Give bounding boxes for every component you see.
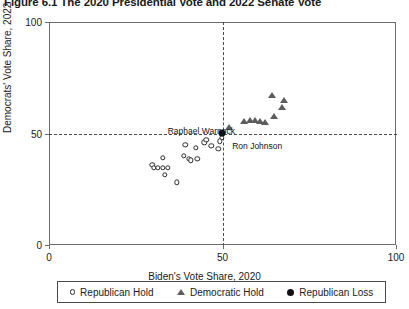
data-point-democratic-hold — [268, 92, 276, 98]
data-point-democratic-hold — [278, 104, 286, 110]
legend-label: Republican Hold — [80, 287, 153, 298]
data-point-democratic-hold — [261, 119, 269, 125]
annotation-raphael-warnock: Raphael Warnock — [168, 126, 235, 136]
data-point-republican-hold — [217, 138, 222, 143]
open-circle-icon — [70, 289, 75, 294]
figure-title: Figure 6.1 The 2020 Presidential Vote an… — [4, 0, 321, 8]
plot-area: Raphael WarnockRon Johnson — [49, 22, 396, 245]
data-point-republican-hold — [174, 180, 179, 185]
data-point-republican-hold — [183, 142, 188, 147]
data-point-republican-hold — [216, 146, 221, 151]
x-tick-mark — [49, 245, 50, 249]
y-tick-label: 0 — [36, 240, 42, 251]
data-point-republican-hold — [162, 172, 167, 177]
legend-label: Republican Loss — [299, 287, 373, 298]
chart-legend: Republican HoldDemocratic HoldRepublican… — [57, 281, 386, 303]
filled-triangle-icon — [177, 289, 185, 295]
y-axis-label: Democrats' Vote Share, 2022 — [2, 3, 13, 133]
legend-item-democratic-hold: Democratic Hold — [177, 287, 264, 298]
data-point-republican-hold — [160, 155, 165, 160]
y-tick-mark — [45, 245, 49, 246]
y-tick-label: 50 — [31, 128, 42, 139]
data-point-republican-hold — [209, 143, 214, 148]
data-point-republican-hold — [188, 157, 193, 162]
annotation-ron-johnson: Ron Johnson — [232, 141, 282, 151]
data-point-republican-hold — [193, 145, 198, 150]
data-point-democratic-hold — [270, 113, 278, 119]
data-point-democratic-hold — [280, 97, 288, 103]
x-tick-label: 0 — [46, 252, 52, 263]
data-point-republican-hold — [203, 137, 208, 142]
legend-label: Democratic Hold — [190, 287, 264, 298]
data-point-republican-hold — [195, 156, 200, 161]
filled-circle-icon — [287, 289, 294, 296]
x-tick-label: 50 — [217, 252, 228, 263]
data-point-republican-hold — [165, 165, 170, 170]
x-tick-label: 100 — [388, 252, 405, 263]
legend-item-republican-loss: Republican Loss — [287, 287, 373, 298]
y-tick-label: 100 — [25, 17, 42, 28]
x-tick-mark — [396, 245, 397, 249]
legend-item-republican-hold: Republican Hold — [70, 287, 154, 298]
